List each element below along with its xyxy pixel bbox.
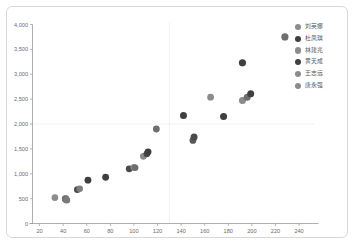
scatter-point[interactable]: [63, 197, 70, 204]
y-tick-label: 500: [19, 196, 28, 202]
scatter-point[interactable]: [52, 194, 59, 201]
data-points[interactable]: [52, 33, 289, 203]
scatter-point[interactable]: [281, 33, 288, 40]
scatter-point[interactable]: [180, 112, 187, 119]
legend-marker-icon: [295, 24, 301, 30]
legend-item-label: 唐永强: [305, 83, 323, 89]
scatter-point[interactable]: [239, 59, 246, 66]
legend-marker-icon: [295, 47, 301, 53]
legend-item[interactable]: 杜凤琪: [295, 33, 347, 45]
scatter-point[interactable]: [145, 148, 152, 155]
legend-item[interactable]: 王志远: [295, 68, 347, 80]
legend-item[interactable]: 唐永强: [295, 80, 347, 92]
gridlines: [33, 23, 315, 224]
x-axis-ticks: 20406080100120140160180200220240: [36, 224, 303, 234]
x-tick-label: 120: [153, 228, 162, 234]
legend-marker-icon: [295, 36, 301, 42]
chart-legend[interactable]: 刘英娜杜凤琪林建兆黄天成王志远唐永强: [295, 21, 347, 92]
x-tick-label: 240: [294, 228, 303, 234]
scatter-point[interactable]: [191, 133, 198, 140]
x-tick-label: 140: [176, 228, 185, 234]
legend-item[interactable]: 林建兆: [295, 45, 347, 57]
scatter-point[interactable]: [85, 177, 92, 184]
scatter-point[interactable]: [247, 90, 254, 97]
legend-item-label: 王志远: [305, 71, 323, 77]
y-tick-label: 4,000: [14, 22, 28, 28]
y-tick-label: 1,500: [14, 146, 28, 152]
scatter-chart-card: 20406080100120140160180200220240 05001,0…: [6, 6, 348, 238]
y-tick-label: 2,500: [14, 96, 28, 102]
y-tick-label: 0: [25, 221, 28, 227]
x-tick-label: 200: [247, 228, 256, 234]
legend-item-label: 刘英娜: [305, 24, 323, 30]
y-tick-label: 1,000: [14, 171, 28, 177]
x-tick-label: 40: [60, 228, 66, 234]
scatter-point[interactable]: [220, 113, 227, 120]
x-tick-label: 80: [107, 228, 113, 234]
y-axis-ticks: 05001,0001,5002,0002,5003,0003,5004,000: [14, 22, 33, 227]
x-tick-label: 100: [129, 228, 138, 234]
legend-marker-icon: [295, 59, 301, 65]
legend-item[interactable]: 刘英娜: [295, 21, 347, 33]
scatter-point[interactable]: [76, 185, 83, 192]
x-tick-label: 160: [200, 228, 209, 234]
y-tick-label: 3,000: [14, 71, 28, 77]
x-tick-label: 20: [36, 228, 42, 234]
scatter-point[interactable]: [132, 164, 139, 171]
legend-item-label: 杜凤琪: [305, 36, 323, 42]
x-tick-label: 60: [84, 228, 90, 234]
legend-marker-icon: [295, 83, 301, 89]
y-tick-label: 2,000: [14, 121, 28, 127]
scatter-point[interactable]: [207, 94, 214, 101]
scatter-point[interactable]: [102, 174, 109, 181]
x-tick-label: 180: [224, 228, 233, 234]
x-tick-label: 220: [271, 228, 280, 234]
legend-item[interactable]: 黄天成: [295, 56, 347, 68]
y-tick-label: 3,500: [14, 46, 28, 52]
legend-marker-icon: [295, 71, 301, 77]
legend-item-label: 黄天成: [305, 59, 323, 65]
scatter-point[interactable]: [153, 126, 160, 133]
legend-item-label: 林建兆: [305, 48, 323, 54]
